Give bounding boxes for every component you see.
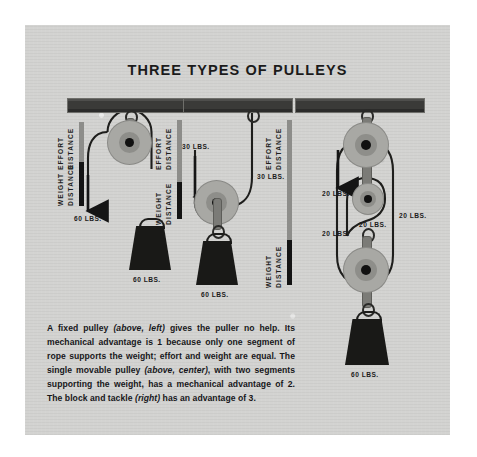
weight-force-label-3: 60 LBS. <box>351 371 379 378</box>
weight-block-1 <box>129 226 171 270</box>
weight-distance-label-2: WEIGHT <box>156 177 163 225</box>
weight-label-line1-3: WEIGHT <box>265 255 272 288</box>
weight-distance-sublabel-2: DISTANCE <box>166 177 173 225</box>
screenshot-root: THREE TYPES OF PULLEYS <box>0 0 477 457</box>
weight-label-line1-1: WEIGHT <box>57 173 64 206</box>
effort-force-label-3: 20 LBS. <box>322 190 350 197</box>
effort-distance-label-3: EFFORT <box>266 122 273 170</box>
weight-label-line2-3: DISTANCE <box>275 246 282 288</box>
effort-distance-gauge-2 <box>177 120 182 182</box>
weight-distance-gauge-1 <box>79 162 84 206</box>
rope-anchor-eye-2 <box>247 109 260 123</box>
effort-distance-sublabel-2: DISTANCE <box>166 122 173 170</box>
segment-force-label-3-right: 20 LBS. <box>399 212 427 219</box>
caption-emphasis-3: (right) <box>135 393 160 403</box>
weight-block-2 <box>196 241 238 285</box>
pulley-axle-3-middle <box>364 195 372 203</box>
weight-block-3 <box>345 319 389 365</box>
effort-label-line1-2: EFFORT <box>155 137 162 170</box>
weight-label-line1-2: WEIGHT <box>155 192 162 225</box>
segment-force-label-3-center: 20 LBS. <box>359 221 387 228</box>
effort-distance-gauge-3 <box>287 120 292 240</box>
rope-force-label-2: 30 LBS. <box>257 173 285 180</box>
weight-label-line2-1: DISTANCE <box>67 164 74 206</box>
effort-label-line2-3: DISTANCE <box>275 128 282 170</box>
pulley-wheel-3-bottom <box>343 247 389 293</box>
effort-label-line1-3: EFFORT <box>265 137 272 170</box>
pulley-axle-3-top <box>361 140 371 150</box>
pulley-wheel-1 <box>107 120 152 165</box>
effort-distance-gauge-1 <box>79 122 84 162</box>
caption-emphasis-2: (above, center) <box>144 365 207 375</box>
effort-distance-label-2: EFFORT <box>156 122 163 170</box>
segment-force-label-3-left: 20 LBS. <box>322 230 350 237</box>
effort-force-label-2: 30 LBS. <box>182 143 210 150</box>
pulley-wheel-3-middle <box>352 183 384 215</box>
weight-distance-gauge-2 <box>177 182 182 219</box>
caption-part-1: A fixed pulley <box>47 323 113 333</box>
pulley-axle-1 <box>125 138 134 147</box>
weight-distance-sublabel-1: DISTANCE <box>68 158 75 206</box>
caption-emphasis-1: (above, left) <box>113 323 164 333</box>
caption-part-4: has an advantage of 3. <box>160 393 256 403</box>
effort-force-label-1: 60 LBS. <box>74 215 102 222</box>
weight-force-label-1: 60 LBS. <box>133 276 161 283</box>
weight-distance-gauge-3 <box>287 240 292 285</box>
weight-distance-label-3: WEIGHT <box>266 240 273 288</box>
weight-label-line2-2: DISTANCE <box>165 183 172 225</box>
pulley-axle-3-bottom <box>361 265 371 275</box>
weight-force-label-2: 60 LBS. <box>201 291 229 298</box>
weight-distance-sublabel-3: DISTANCE <box>276 240 283 288</box>
support-beam-3 <box>295 98 425 113</box>
effort-label-line2-2: DISTANCE <box>165 128 172 170</box>
pulley-wheel-3-top <box>343 122 389 168</box>
effort-distance-sublabel-3: DISTANCE <box>276 122 283 170</box>
diagram-panel: THREE TYPES OF PULLEYS <box>25 25 450 435</box>
support-beam-2 <box>183 98 293 113</box>
caption-paragraph: A fixed pulley (above, left) gives the p… <box>47 321 295 406</box>
weight-distance-label-1: WEIGHT <box>58 158 65 206</box>
